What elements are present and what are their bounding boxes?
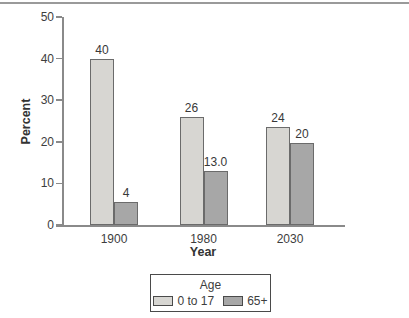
bar-value-label: 40 [80,43,124,57]
legend-entry-label: 65+ [247,294,267,308]
y-tick [56,58,62,60]
top-rule [0,2,409,4]
legend: Age 0 to 1765+ [150,274,271,312]
bar-65--2030 [290,143,314,225]
legend-entry: 0 to 17 [153,294,214,308]
y-axis-title: Percent [19,82,34,162]
y-tick [56,224,62,226]
x-axis-title: Year [173,245,233,259]
y-tick-label: 0 [24,218,54,232]
y-tick-label: 40 [24,52,54,66]
bar-0-to-17-2030 [266,127,290,225]
y-tick [56,99,62,101]
x-category-label: 1900 [84,232,144,246]
y-tick-label: 10 [24,176,54,190]
bar-65--1980 [204,171,228,225]
legend-swatch-icon [153,296,173,306]
legend-swatch-icon [223,296,243,306]
legend-title: Age [151,278,270,292]
y-tick-label: 50 [24,10,54,24]
bar-0-to-17-1980 [180,117,204,225]
x-category-label: 2030 [260,232,320,246]
y-axis-line [62,17,64,225]
bar-value-label: 20 [280,127,324,141]
bar-chart-figure: 01020304050402624413.020190019802030 Per… [0,0,409,318]
bar-value-label: 24 [256,111,300,125]
x-category-label: 1980 [174,232,234,246]
legend-entry-label: 0 to 17 [177,294,214,308]
bar-65--1900 [114,202,138,225]
bar-value-label: 26 [170,101,214,115]
bar-value-label: 4 [104,186,148,200]
x-axis-line [56,225,345,227]
legend-row: 0 to 1765+ [151,294,270,308]
legend-entry: 65+ [223,294,267,308]
y-tick [56,141,62,143]
bar-value-label: 13.0 [194,155,238,169]
y-tick [56,16,62,18]
y-tick [56,183,62,185]
